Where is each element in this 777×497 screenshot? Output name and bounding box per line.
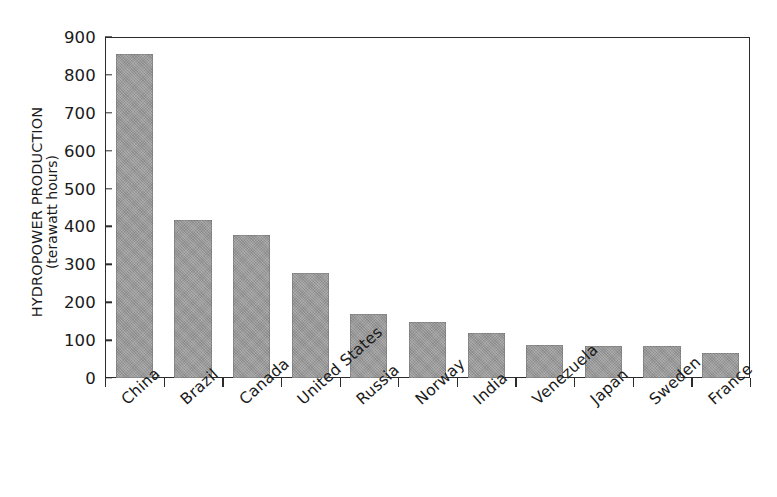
x-tick-mark	[515, 378, 516, 387]
x-tick-mark	[633, 378, 634, 387]
y-axis-title-units: (terawatt hours)	[45, 155, 61, 269]
y-axis-title-main: HYDROPOWER PRODUCTION	[29, 107, 45, 317]
y-tick-label: 400	[64, 217, 96, 236]
y-tick-label: 200	[64, 293, 96, 312]
x-tick-mark	[340, 378, 341, 387]
bar	[116, 54, 153, 378]
bar	[174, 220, 211, 378]
y-tick-label: 900	[64, 28, 96, 47]
x-tick-mark	[281, 378, 282, 387]
bar	[292, 273, 329, 378]
y-tick-label: 300	[64, 255, 96, 274]
x-tick-mark	[398, 378, 399, 387]
bar-series	[105, 37, 750, 378]
y-tick-label: 0	[85, 369, 96, 388]
x-tick-mark	[105, 378, 106, 387]
x-tick-mark	[574, 378, 575, 387]
x-tick-mark	[691, 378, 692, 387]
x-tick-mark	[750, 378, 751, 387]
y-tick-label: 600	[64, 141, 96, 160]
hydropower-production-bar-chart: HYDROPOWER PRODUCTION (terawatt hours) 9…	[0, 0, 777, 497]
y-tick-label: 500	[64, 179, 96, 198]
y-tick-label: 800	[64, 65, 96, 84]
x-tick-mark	[164, 378, 165, 387]
x-tick-mark	[222, 378, 223, 387]
y-tick-label: 100	[64, 331, 96, 350]
bar	[233, 235, 270, 378]
y-tick-label: 700	[64, 103, 96, 122]
x-tick-mark	[457, 378, 458, 387]
